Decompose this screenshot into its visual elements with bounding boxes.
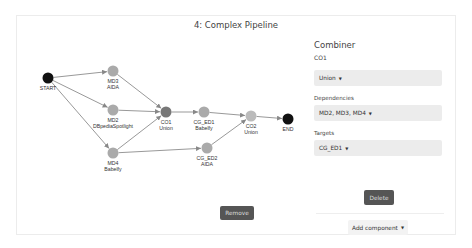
dependencies-value: MD2, MD3, MD4 [319,110,366,116]
edge-cg_ed2-co2 [211,120,246,145]
edge-start-md4 [52,82,109,148]
graph-node-end[interactable]: END [283,114,294,132]
component-id: CO1 [314,54,444,61]
edge-co2-end [256,116,282,118]
node-sublabel: Babelfy [195,125,213,131]
panel-title: Combiner [314,40,444,50]
graph-node-co1[interactable]: CO1Union [159,107,173,131]
chevron-down-icon: ▼ [401,225,404,230]
node-circle[interactable] [108,66,119,77]
graph-node-cg_ed2[interactable]: CG_ED2AIDA [197,143,218,167]
node-circle[interactable] [202,143,213,154]
node-sublabel: AIDA [201,161,214,167]
graph-node-cg_ed1[interactable]: CG_ED1Babelfy [194,107,215,131]
type-value: Union [319,75,336,81]
graph-node-md3[interactable]: MD3AIDA [107,66,120,90]
add-component-button[interactable]: Add component ▼ [348,220,408,235]
node-sublabel: Babelfy [104,166,122,172]
chevron-down-icon: ▼ [369,111,372,116]
edge-md3-co1 [117,74,161,108]
node-label: END [283,126,294,132]
dependencies-dropdown[interactable]: MD2, MD3, MD4 ▼ [314,105,442,121]
type-dropdown[interactable]: Union ▼ [314,70,442,86]
graph-nodes[interactable]: STARTMD3AIDAMD2DBpediaSpotlightMD4Babelf… [40,66,294,172]
edge-md4-cg_ed2 [118,148,201,152]
graph-node-md4[interactable]: MD4Babelfy [104,148,122,172]
component-panel: Combiner CO1 Union ▼ Dependencies MD2, M… [314,40,444,156]
node-circle[interactable] [283,114,294,125]
node-sublabel: Union [244,129,258,135]
node-label: START [40,85,57,91]
node-circle[interactable] [108,105,119,116]
node-sublabel: Union [159,125,173,131]
remove-button[interactable]: Remove [220,206,254,220]
node-circle[interactable] [199,107,210,118]
node-sublabel: AIDA [107,84,120,90]
edge-md4-co1 [117,116,161,150]
graph-node-co2[interactable]: CO2Union [244,111,258,135]
divider [316,213,444,214]
graph-node-md2[interactable]: MD2DBpediaSpotlight [93,105,134,129]
edge-cg_ed1-co2 [209,112,245,115]
node-circle[interactable] [161,107,172,118]
node-sublabel: DBpediaSpotlight [93,123,134,129]
node-circle[interactable] [43,73,54,84]
chevron-down-icon: ▼ [345,146,348,151]
node-circle[interactable] [108,148,119,159]
dependencies-label: Dependencies [314,95,444,101]
chevron-down-icon: ▼ [339,76,342,81]
delete-button[interactable]: Delete [364,190,394,205]
targets-value: CG_ED1 [319,145,342,151]
edge-start-md3 [53,72,107,78]
targets-label: Targets [314,130,444,136]
targets-dropdown[interactable]: CG_ED1 ▼ [314,140,442,156]
add-component-label: Add component [352,225,398,231]
node-circle[interactable] [246,111,257,122]
edge-md2-co1 [118,110,160,112]
